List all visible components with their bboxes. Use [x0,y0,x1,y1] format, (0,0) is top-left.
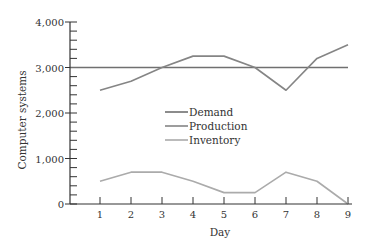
x-tick-label: 8 [314,209,320,220]
legend-label-demand: Demand [189,106,234,118]
x-axis-tick-labels: 123456789 [97,209,351,220]
y-tick-label: 3,000 [35,63,64,74]
line-chart: 01,0002,0003,0004,000 123456789 Computer… [0,0,370,251]
y-tick-label: 0 [58,199,64,210]
x-tick-label: 1 [97,209,103,220]
x-tick-label: 9 [345,209,351,220]
y-tick-label: 1,000 [35,154,64,165]
x-tick-label: 3 [159,209,165,220]
x-axis-title: Day [210,226,231,238]
x-tick-label: 7 [283,209,289,220]
legend: DemandProductionInventory [165,106,248,146]
x-tick-label: 4 [190,209,196,220]
legend-label-production: Production [189,120,248,132]
legend-label-inventory: Inventory [189,134,240,146]
y-axis-ticks [65,22,77,204]
y-axis-tick-labels: 01,0002,0003,0004,000 [35,17,64,210]
x-tick-label: 5 [221,209,227,220]
x-tick-label: 2 [128,209,134,220]
y-axis-title: Computer systems [16,70,28,169]
x-axis-ticks [100,197,348,204]
y-tick-label: 4,000 [35,17,64,28]
x-tick-label: 6 [252,209,258,220]
y-tick-label: 2,000 [35,108,64,119]
